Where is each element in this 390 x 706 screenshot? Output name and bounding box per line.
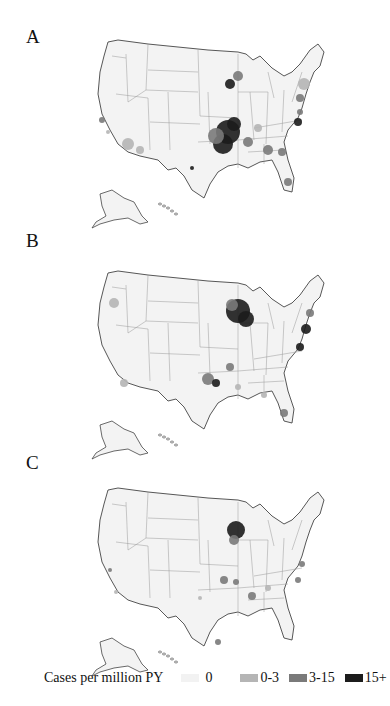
hawaii-island (170, 441, 173, 443)
legend-swatch-1 (240, 674, 258, 682)
hawaii-island (162, 653, 165, 655)
hawaii-island (166, 655, 169, 657)
incidence-cluster (229, 535, 239, 545)
incidence-cluster (248, 592, 256, 600)
legend-item-1: 0-3 (240, 670, 279, 686)
hawaii-island (174, 213, 177, 215)
incidence-cluster (235, 384, 241, 390)
incidence-cluster (227, 117, 241, 131)
incidence-cluster (212, 379, 220, 387)
incidence-cluster (215, 639, 221, 645)
incidence-cluster (220, 576, 228, 584)
legend-label-0: 0 (205, 670, 212, 686)
incidence-cluster (106, 130, 110, 134)
hawaii-island (166, 207, 169, 209)
incidence-cluster (198, 596, 202, 600)
incidence-cluster (295, 577, 301, 583)
legend-title: Cases per million PY (44, 670, 163, 686)
incidence-cluster (254, 124, 262, 132)
incidence-cluster (294, 118, 302, 126)
incidence-cluster (261, 392, 267, 398)
panel-label-b: B (26, 230, 39, 252)
legend-item-2: 3-15 (289, 670, 335, 686)
conus-outline (98, 271, 324, 429)
alaska-outline (92, 190, 148, 228)
incidence-cluster (306, 309, 314, 317)
legend-swatch-2 (289, 674, 307, 682)
map-panel-a (88, 32, 344, 232)
incidence-cluster (226, 299, 238, 311)
incidence-cluster (99, 117, 105, 123)
legend-item-3: 15+ (345, 670, 387, 686)
hawaii-island (174, 444, 177, 446)
hawaii-island (162, 205, 165, 207)
hawaii-island (170, 210, 173, 212)
incidence-cluster (301, 324, 311, 334)
legend-swatch-0 (181, 674, 199, 682)
incidence-cluster (298, 78, 310, 90)
conus-outline (98, 488, 324, 646)
panel-label-a: A (26, 26, 40, 48)
incidence-cluster (299, 561, 305, 567)
incidence-cluster (297, 109, 303, 115)
incidence-cluster (233, 579, 239, 585)
incidence-cluster (280, 409, 288, 417)
legend-label-3: 15+ (365, 670, 387, 686)
incidence-cluster (296, 343, 304, 351)
hawaii-island (158, 651, 161, 653)
incidence-cluster (122, 138, 134, 150)
incidence-cluster (284, 178, 292, 186)
legend: Cases per million PY 0 0-3 3-15 15+ (44, 666, 390, 690)
hawaii-island (162, 436, 165, 438)
incidence-cluster (226, 363, 234, 371)
incidence-cluster (120, 379, 128, 387)
incidence-cluster (109, 298, 119, 308)
incidence-cluster (233, 71, 243, 81)
map-panel-c (88, 480, 344, 680)
hawaii-island (158, 434, 161, 436)
incidence-cluster (208, 128, 224, 144)
panel-label-c: C (26, 452, 39, 474)
hawaii-island (170, 658, 173, 660)
us-map-c (88, 480, 344, 680)
incidence-cluster (108, 568, 112, 572)
incidence-cluster (263, 145, 273, 155)
incidence-cluster (225, 79, 235, 89)
hawaii-island (166, 438, 169, 440)
incidence-cluster (114, 590, 118, 594)
incidence-cluster (243, 137, 253, 147)
incidence-cluster (296, 94, 304, 102)
hawaii-island (174, 661, 177, 663)
legend-label-1: 0-3 (260, 670, 279, 686)
incidence-cluster (136, 146, 144, 154)
us-map-b (88, 263, 344, 463)
incidence-cluster (278, 148, 286, 156)
hawaii-island (158, 203, 161, 205)
alaska-outline (92, 421, 148, 459)
us-map-a (88, 32, 344, 232)
conus-outline (98, 40, 324, 198)
incidence-cluster (265, 585, 271, 591)
legend-item-0: 0 (181, 670, 212, 686)
map-panel-b (88, 263, 344, 463)
incidence-cluster (238, 311, 254, 327)
legend-swatch-3 (345, 674, 363, 682)
incidence-cluster (190, 166, 194, 170)
legend-label-2: 3-15 (309, 670, 335, 686)
